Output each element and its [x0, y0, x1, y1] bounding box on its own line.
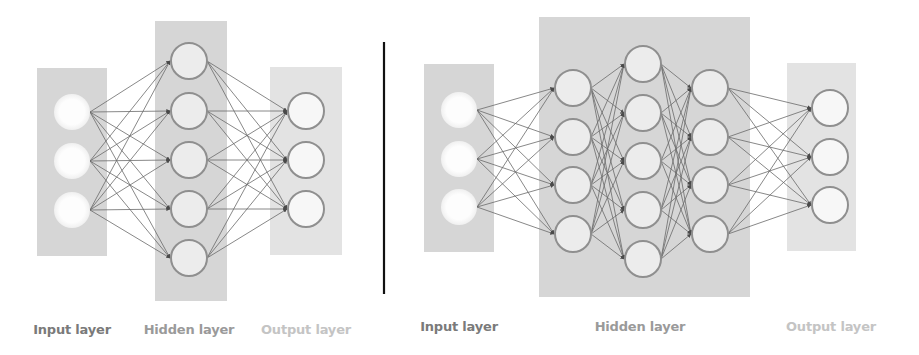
deep-network-hidden-node	[692, 216, 728, 252]
shallow-network-input-node	[54, 192, 90, 228]
deep-network-hidden-layer-label: Hidden layer	[595, 319, 686, 334]
deep-network-hidden-node	[555, 216, 591, 252]
deep-network-output-layer-label: Output layer	[786, 319, 876, 334]
shallow-network-output-layer-label: Output layer	[261, 322, 351, 337]
shallow-network-hidden-node	[171, 240, 207, 276]
deep-network-hidden-node	[555, 167, 591, 203]
deep-network-output-node	[812, 187, 848, 223]
deep-network-hidden-node	[555, 119, 591, 155]
deep-network-input-node	[441, 189, 477, 225]
deep-network-hidden-node	[625, 95, 661, 131]
shallow-network-hidden-node	[171, 93, 207, 129]
shallow-network-output-node	[288, 191, 324, 227]
deep-network-hidden-node	[692, 167, 728, 203]
deep-network-hidden-node	[692, 70, 728, 106]
deep-network-hidden-node	[625, 143, 661, 179]
deep-network-output-node	[812, 139, 848, 175]
shallow-network-hidden-node	[171, 142, 207, 178]
shallow-network-hidden-node	[171, 43, 207, 79]
deep-network-hidden-node	[555, 70, 591, 106]
shallow-network-hidden-layer-label: Hidden layer	[144, 322, 235, 337]
deep-network-hidden-node	[692, 119, 728, 155]
shallow-network-input-node	[54, 143, 90, 179]
shallow-network-output-node	[288, 93, 324, 129]
shallow-network-hidden-node	[171, 191, 207, 227]
deep-network-hidden-node	[625, 241, 661, 277]
neural-network-comparison-diagram	[0, 0, 919, 355]
shallow-network-input-node	[54, 94, 90, 130]
deep-network-hidden-node	[625, 46, 661, 82]
deep-network-input-node	[441, 92, 477, 128]
deep-network-hidden-node	[625, 192, 661, 228]
shallow-network-input-layer-label: Input layer	[33, 322, 111, 337]
shallow-network-output-node	[288, 142, 324, 178]
deep-network-output-node	[812, 90, 848, 126]
deep-network-input-node	[441, 141, 477, 177]
deep-network-input-layer-label: Input layer	[420, 319, 498, 334]
